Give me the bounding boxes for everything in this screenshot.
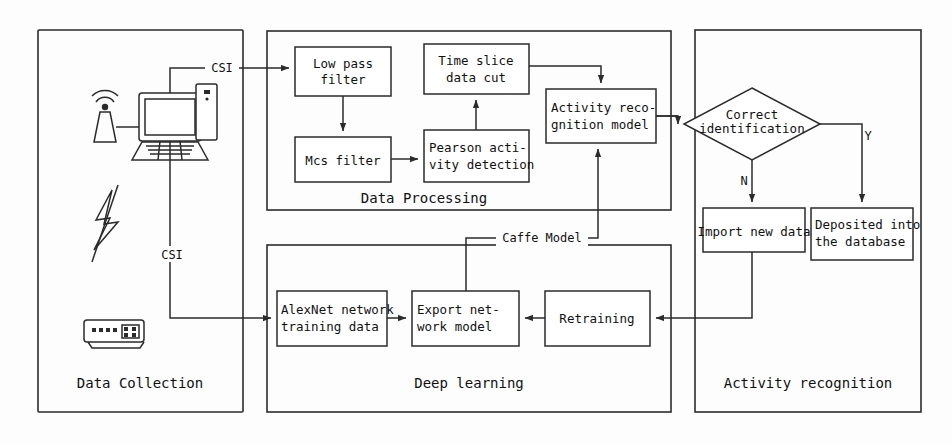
connector-decision-no: N	[740, 160, 752, 202]
connector-csi-bottom: CSI	[155, 160, 271, 318]
box-time-slice-data-cut: Time slice data cut	[424, 44, 529, 94]
panel-label-data-processing: Data Processing	[361, 190, 487, 206]
connector-decision-yes: Y	[820, 124, 872, 202]
box-mcs-filter: Mcs filter	[295, 137, 391, 182]
edge-label-branch-no: N	[740, 174, 747, 188]
panel-label-deep-learning: Deep learning	[414, 375, 524, 391]
panel-label-activity-recognition: Activity recognition	[724, 375, 893, 391]
box-export-network-model: Export net- work model	[412, 291, 519, 346]
box-label-activity-model-line2: gnition model	[551, 117, 649, 132]
box-pearson-activity-detection: Pearson acti- vity detection	[424, 130, 534, 182]
connector-activity-model-to-decision	[656, 116, 678, 124]
box-label-low-pass-filter-line1: Low pass	[313, 56, 373, 71]
box-label-deposited-line2: the database	[815, 234, 905, 249]
box-retraining: Retraining	[545, 291, 650, 346]
panel-label-data-collection: Data Collection	[77, 375, 203, 391]
box-low-pass-filter: Low pass filter	[295, 47, 391, 96]
box-label-time-slice-line2: data cut	[446, 70, 506, 85]
box-label-activity-model-line1: Activity reco-	[551, 100, 656, 115]
decision-label-line2: identification	[699, 121, 804, 136]
edge-label-caffe-model: Caffe Model	[502, 231, 581, 245]
box-label-low-pass-filter-line2: filter	[320, 72, 366, 87]
box-label-deposited-line1: Deposited into	[815, 217, 920, 232]
lightning-signal-icon	[92, 185, 118, 262]
box-label-alexnet-line1: AlexNet network	[281, 302, 394, 317]
edge-label-branch-yes: Y	[864, 129, 872, 143]
decision-correct-identification: Correct identification	[684, 88, 820, 160]
decision-label-line1: Correct	[726, 107, 779, 122]
box-label-retraining: Retraining	[559, 311, 634, 326]
edge-label-csi-top: CSI	[211, 61, 233, 75]
box-deposited-into-the-database: Deposited into the database	[811, 208, 920, 260]
connector-timeslice-to-activity-model	[529, 66, 601, 83]
connector-csi-top: CSI	[170, 59, 289, 93]
desktop-computer-icon	[132, 84, 217, 160]
system-architecture-diagram: Data Collection Data Processing Deep lea…	[0, 0, 952, 444]
box-label-pearson-line1: Pearson acti-	[429, 140, 527, 155]
box-label-export-line1: Export net-	[417, 302, 500, 317]
box-alexnet-network-training-data: AlexNet network training data	[277, 291, 394, 346]
wifi-antenna-icon	[92, 90, 140, 142]
box-label-export-line2: work model	[417, 319, 492, 334]
box-import-new-data: Import new data	[698, 208, 811, 252]
edge-label-csi-bottom: CSI	[161, 248, 183, 262]
box-activity-recognition-model: Activity reco- gnition model	[546, 89, 656, 143]
box-label-mcs-filter: Mcs filter	[305, 153, 381, 168]
box-label-pearson-line2: vity detection	[429, 157, 534, 172]
box-label-time-slice-line1: Time slice	[438, 53, 513, 68]
box-label-alexnet-line2: training data	[281, 319, 379, 334]
router-device-icon	[84, 320, 144, 348]
box-label-import-new-data: Import new data	[698, 224, 811, 239]
